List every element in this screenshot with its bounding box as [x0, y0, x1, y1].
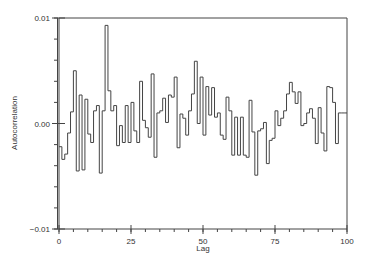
x-tick-label: 75	[271, 237, 280, 246]
x-tick-label: 0	[57, 237, 62, 246]
x-tick-label: 100	[340, 237, 354, 246]
x-tick-label: 25	[127, 237, 136, 246]
y-tick-label: −0.01	[30, 225, 51, 234]
autocorrelation-chart: 0255075100−0.010.000.01 Lag Autocorrelat…	[0, 0, 367, 270]
y-tick-label: 0.00	[34, 120, 50, 129]
tick-labels: 0255075100−0.010.000.01	[30, 14, 354, 246]
autocorrelation-step-line	[59, 25, 347, 175]
y-tick-label: 0.01	[34, 14, 50, 23]
y-axis-title: Autocorrelation	[10, 96, 19, 150]
x-axis-title: Lag	[196, 244, 209, 253]
